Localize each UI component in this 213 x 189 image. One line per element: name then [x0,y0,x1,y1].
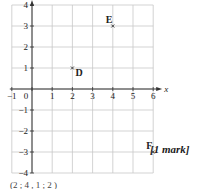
x-axis-label: x [163,84,168,94]
x-tick-label: 0 [24,91,29,101]
mark-label: [1 mark] [150,143,189,155]
x-tick-label: 2 [70,91,75,101]
x-tick-label: 5 [131,91,136,101]
y-tick-label: −3 [18,147,28,157]
x-tick-label: 1 [50,91,55,101]
y-tick-label: −1 [18,105,28,115]
x-tick-label: 4 [111,91,116,101]
x-tick-label: 6 [151,91,156,101]
coordinate-grid: x−10123456−4−3−2−11234DEF [0,0,213,189]
point-label-e: E [106,14,113,25]
x-tick-label: −1 [7,91,17,101]
y-tick-label: 4 [24,0,29,10]
y-tick-label: −4 [18,168,28,178]
y-tick-label: −2 [18,126,28,136]
y-tick-label: 2 [24,42,29,52]
y-tick-label: 1 [24,63,29,73]
footer-text: (2 ; 4 , 1 ; 2 ) [10,180,57,189]
y-tick-label: 3 [24,21,29,31]
x-tick-label: 3 [90,91,95,101]
point-label-d: D [75,67,82,78]
x-axis-arrow-icon [156,87,162,91]
